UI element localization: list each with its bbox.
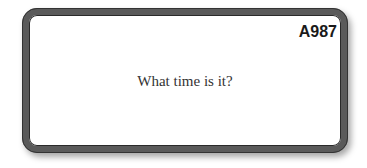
flash-card: A987 What time is it? xyxy=(22,8,348,153)
card-question: What time is it? xyxy=(29,73,341,90)
card-code: A987 xyxy=(299,23,337,41)
